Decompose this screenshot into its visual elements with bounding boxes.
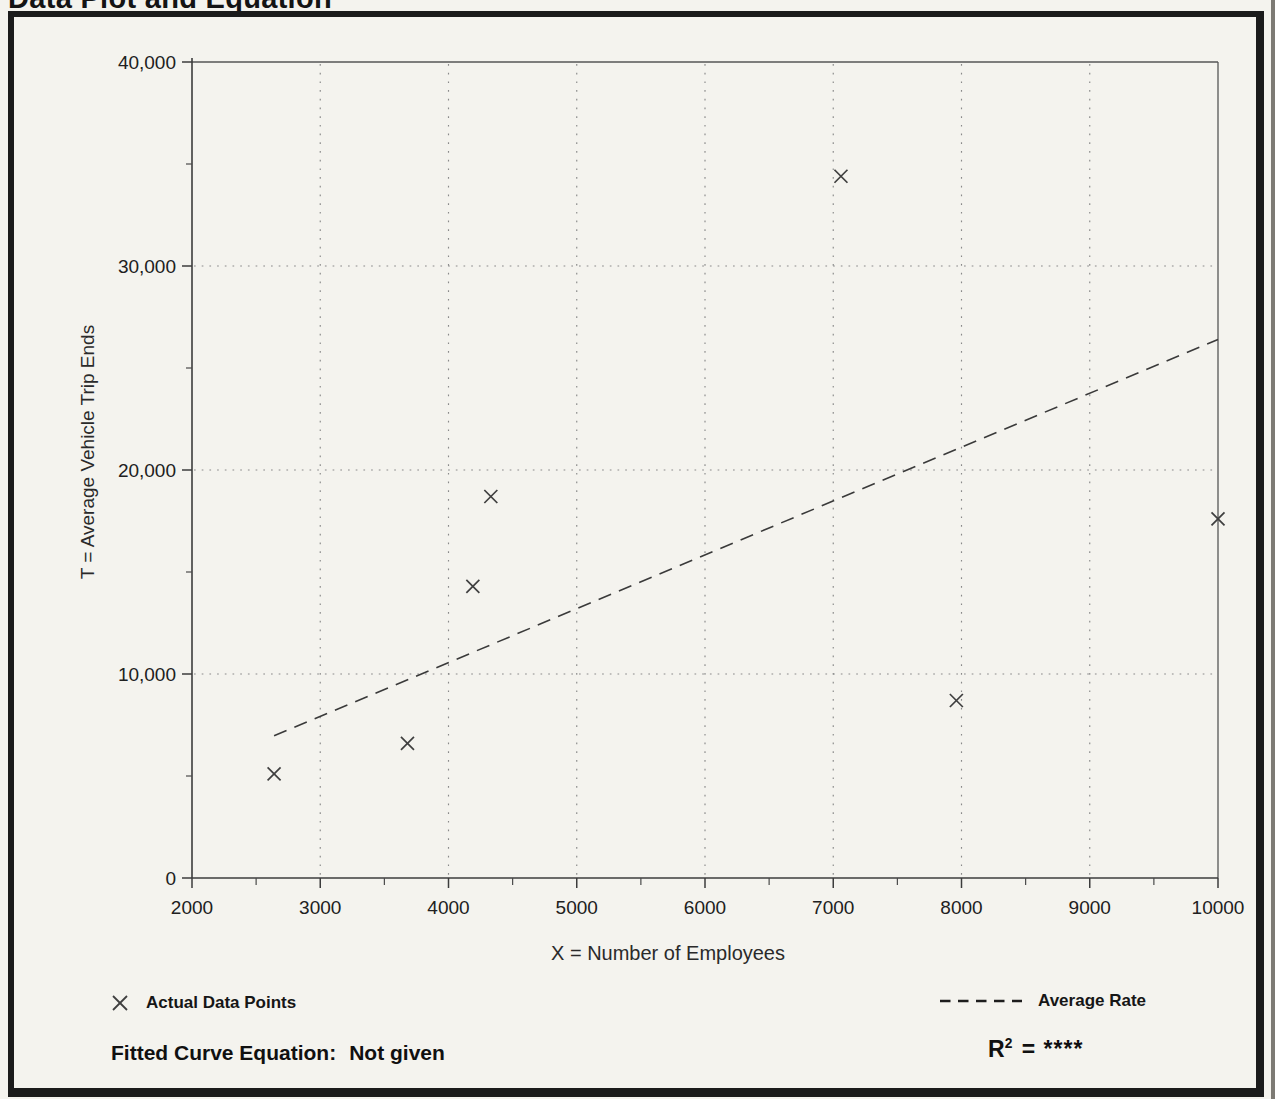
svg-text:6000: 6000 [684, 897, 726, 918]
svg-text:20,000: 20,000 [118, 460, 176, 481]
legend-average-rate-label: Average Rate [1038, 991, 1146, 1011]
svg-text:9000: 9000 [1069, 897, 1111, 918]
fitted-curve-equation: Fitted Curve Equation:Not given [111, 1041, 445, 1065]
data-point-marker [834, 170, 847, 183]
y-axis-title: T = Average Vehicle Trip Ends [77, 325, 99, 579]
svg-text:3000: 3000 [299, 897, 341, 918]
data-point-marker [950, 694, 963, 707]
x-marker-icon [110, 993, 130, 1013]
fitted-curve-equation-value: Not given [349, 1041, 445, 1064]
plot-frame [192, 58, 1218, 878]
average-rate-line [274, 339, 1218, 735]
svg-text:2000: 2000 [171, 897, 213, 918]
svg-text:10,000: 10,000 [118, 664, 176, 685]
dashed-line-icon [938, 994, 1024, 1008]
legend-average-rate: Average Rate [938, 991, 1146, 1011]
svg-text:10000: 10000 [1192, 897, 1245, 918]
svg-text:4000: 4000 [427, 897, 469, 918]
svg-text:8000: 8000 [940, 897, 982, 918]
data-point-marker [401, 737, 414, 750]
legend-actual-data-points-label: Actual Data Points [146, 993, 296, 1013]
scan-page-edge [1271, 0, 1275, 1099]
scatter-chart: 010,00020,00030,00040,000200030004000500… [0, 0, 1275, 1099]
gridlines [194, 64, 1217, 877]
svg-text:7000: 7000 [812, 897, 854, 918]
data-points [268, 170, 1225, 781]
svg-text:5000: 5000 [556, 897, 598, 918]
axis-ticks [182, 62, 1218, 888]
data-point-marker [268, 767, 281, 780]
scanned-document-page: Data Plot and Equation 010,00020,00030,0… [0, 0, 1275, 1099]
r-squared-statistic: R2 = **** [988, 1036, 1083, 1063]
legend-actual-data-points: Actual Data Points [110, 993, 296, 1013]
svg-text:40,000: 40,000 [118, 52, 176, 73]
svg-text:0: 0 [165, 868, 176, 889]
data-point-marker [484, 490, 497, 503]
x-axis-title: X = Number of Employees [551, 942, 785, 965]
data-point-marker [466, 580, 479, 593]
r-squared-exponent: 2 [1005, 1036, 1013, 1051]
fitted-curve-equation-label: Fitted Curve Equation: [111, 1041, 336, 1064]
r-squared-symbol: R [988, 1036, 1005, 1062]
tick-labels: 010,00020,00030,00040,000200030004000500… [118, 52, 1245, 918]
r-squared-value: = **** [1022, 1036, 1084, 1062]
svg-text:30,000: 30,000 [118, 256, 176, 277]
